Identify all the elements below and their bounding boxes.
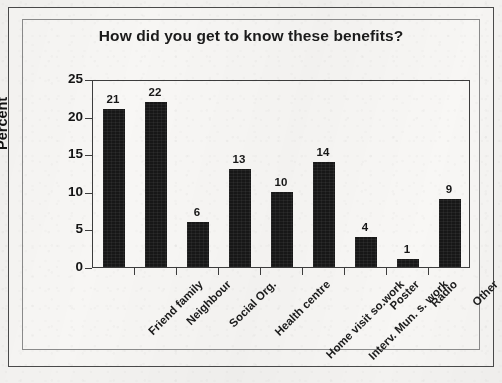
bar: [145, 102, 167, 267]
y-tick-mark: [85, 155, 92, 156]
bar-value-label: 22: [135, 86, 175, 98]
x-tick-mark: [260, 268, 261, 275]
plot-area: [92, 80, 470, 268]
y-tick-label: 0: [61, 259, 83, 274]
bar-value-label: 9: [429, 183, 469, 195]
bar: [439, 199, 461, 267]
chart-page: How did you get to know these benefits? …: [0, 0, 502, 383]
y-tick-mark: [85, 230, 92, 231]
y-tick-label: 25: [61, 71, 83, 86]
x-tick-mark: [302, 268, 303, 275]
bar: [187, 222, 209, 267]
y-tick-mark: [85, 118, 92, 119]
y-tick-label: 5: [61, 221, 83, 236]
y-tick-mark: [85, 193, 92, 194]
x-tick-mark: [134, 268, 135, 275]
bar-value-label: 4: [345, 221, 385, 233]
x-tick-mark: [386, 268, 387, 275]
y-tick-mark: [85, 80, 92, 81]
bar-value-label: 6: [177, 206, 217, 218]
y-tick-label: 20: [61, 109, 83, 124]
bar: [271, 192, 293, 267]
chart-title: How did you get to know these benefits?: [22, 27, 480, 45]
x-tick-mark: [176, 268, 177, 275]
y-tick-label: 15: [61, 146, 83, 161]
bar: [313, 162, 335, 267]
bar: [355, 237, 377, 267]
bar-value-label: 21: [93, 93, 133, 105]
bar-value-label: 14: [303, 146, 343, 158]
bar: [229, 169, 251, 267]
bar: [397, 259, 419, 267]
x-tick-mark: [428, 268, 429, 275]
bar-value-label: 13: [219, 153, 259, 165]
cut-off-caption-text: [44, 0, 464, 2]
y-tick-mark: [85, 268, 92, 269]
bar-value-label: 10: [261, 176, 301, 188]
x-tick-mark: [344, 268, 345, 275]
y-tick-label: 10: [61, 184, 83, 199]
bar-value-label: 1: [387, 243, 427, 255]
bar: [103, 109, 125, 267]
y-axis-title: Percent: [0, 97, 10, 150]
x-tick-mark: [218, 268, 219, 275]
